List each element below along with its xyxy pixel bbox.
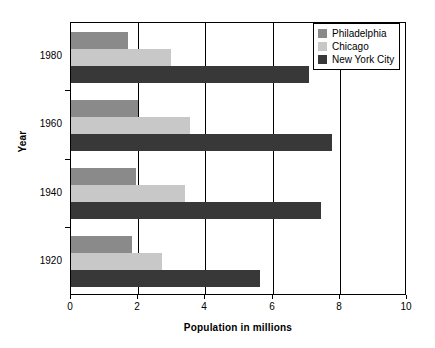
y-tick-label-1960: 1960 [8, 118, 62, 129]
x-tick-0 [70, 295, 71, 299]
x-tick-10 [406, 295, 407, 299]
x-tick-label-6: 6 [252, 301, 292, 312]
bar-new-york-city-1960 [71, 134, 332, 151]
x-tick-2 [137, 295, 138, 299]
x-tick-8 [339, 295, 340, 299]
x-tick-6 [272, 295, 273, 299]
bar-chicago-1960 [71, 117, 190, 134]
y-tick-1960 [65, 90, 70, 91]
legend-swatch-icon [318, 55, 327, 64]
y-tick-label-1980: 1980 [8, 50, 62, 61]
bar-chicago-1920 [71, 253, 162, 270]
y-tick-1920 [65, 227, 70, 228]
y-tick-label-1920: 1920 [8, 255, 62, 266]
bar-chart-figure: Year Population in millions 0246810 1980… [0, 0, 435, 348]
bar-new-york-city-1980 [71, 66, 309, 83]
legend-item-philadelphia[interactable]: Philadelphia [318, 27, 394, 40]
bar-philadelphia-1980 [71, 32, 128, 49]
bar-chicago-1940 [71, 185, 185, 202]
legend-label: New York City [332, 53, 394, 66]
x-tick-4 [204, 295, 205, 299]
legend-item-new-york-city[interactable]: New York City [318, 53, 394, 66]
x-axis-title: Population in millions [70, 322, 406, 333]
legend[interactable]: PhiladelphiaChicagoNew York City [313, 23, 400, 70]
legend-label: Chicago [332, 40, 369, 53]
bar-philadelphia-1960 [71, 100, 138, 117]
legend-swatch-icon [318, 29, 327, 38]
bar-philadelphia-1940 [71, 168, 136, 185]
y-tick-1940 [65, 159, 70, 160]
x-tick-label-0: 0 [50, 301, 90, 312]
x-tick-label-4: 4 [184, 301, 224, 312]
bar-new-york-city-1940 [71, 202, 321, 219]
bar-new-york-city-1920 [71, 270, 260, 287]
legend-label: Philadelphia [332, 27, 387, 40]
legend-item-chicago[interactable]: Chicago [318, 40, 394, 53]
x-tick-label-10: 10 [386, 301, 426, 312]
y-tick-label-1940: 1940 [8, 187, 62, 198]
x-tick-label-2: 2 [117, 301, 157, 312]
x-tick-label-8: 8 [319, 301, 359, 312]
legend-swatch-icon [318, 42, 327, 51]
bar-chicago-1980 [71, 49, 171, 66]
bar-philadelphia-1920 [71, 236, 132, 253]
